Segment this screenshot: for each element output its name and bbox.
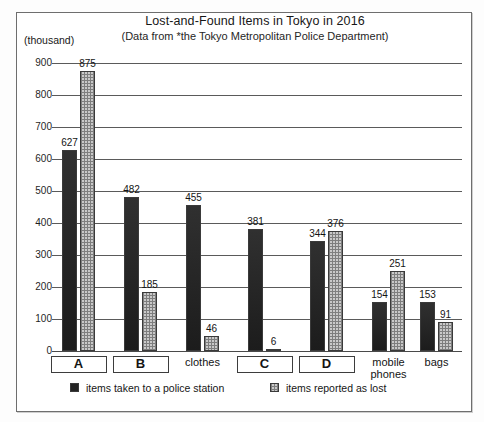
y-axis-tick-label: 900 xyxy=(6,57,52,68)
dotted-square-icon xyxy=(270,383,279,392)
bar-lost xyxy=(142,292,157,351)
y-axis-tick: 200 xyxy=(0,287,52,288)
y-axis-tick-label: 100 xyxy=(6,313,52,324)
y-axis-tick: 800 xyxy=(0,95,52,96)
legend-item-series1: items taken to a police station xyxy=(70,381,224,394)
y-axis-tick: 0 xyxy=(0,351,52,352)
y-axis-tick-label: 700 xyxy=(6,121,52,132)
y-axis-tick-label: 0 xyxy=(6,345,52,356)
bar-value-label: 185 xyxy=(130,279,170,290)
y-axis-tick-label: 300 xyxy=(6,249,52,260)
category-label-clothes: clothes xyxy=(169,356,237,368)
bar-taken xyxy=(248,229,263,351)
gridline xyxy=(52,127,462,128)
bar-value-label: 381 xyxy=(236,216,276,227)
bar-lost xyxy=(328,231,343,351)
legend-label-series1: items taken to a police station xyxy=(86,382,224,394)
bar-lost xyxy=(204,336,219,351)
bar-taken xyxy=(372,302,387,351)
category-label-box: C xyxy=(237,356,293,373)
y-axis-tick-label: 200 xyxy=(6,281,52,292)
bar-taken xyxy=(62,150,77,351)
y-axis-tick: 900 xyxy=(0,63,52,64)
category-label-box: A xyxy=(51,356,107,373)
category-label-A: A xyxy=(45,356,113,373)
gridline xyxy=(52,63,462,64)
category-label-box: B xyxy=(113,356,169,373)
legend-label-series2: items reported as lost xyxy=(286,382,386,394)
chart-screenshot: Lost-and-Found Items in Tokyo in 2016 (D… xyxy=(0,0,484,422)
bar-lost xyxy=(390,271,405,351)
bar-value-label: 91 xyxy=(426,309,466,320)
x-axis-baseline xyxy=(52,351,462,352)
y-axis-tick: 500 xyxy=(0,191,52,192)
bar-value-label: 251 xyxy=(378,258,418,269)
bar-value-label: 376 xyxy=(316,218,356,229)
y-axis-tick: 300 xyxy=(0,255,52,256)
bar-lost xyxy=(438,322,453,351)
category-label-B: B xyxy=(107,356,175,373)
gridline xyxy=(52,159,462,160)
bar-lost xyxy=(266,349,281,351)
y-axis-tick-label: 800 xyxy=(6,89,52,100)
bar-value-label: 6 xyxy=(254,336,294,347)
bar-value-label: 46 xyxy=(192,323,232,334)
bar-value-label: 455 xyxy=(174,192,214,203)
y-axis-tick-label: 500 xyxy=(6,185,52,196)
plot-area: 9008007006005004003002001000 62787548218… xyxy=(0,0,484,422)
y-axis-tick: 100 xyxy=(0,319,52,320)
bar-value-label: 482 xyxy=(112,184,152,195)
y-axis-tick-label: 400 xyxy=(6,217,52,228)
category-label-D: D xyxy=(293,356,361,373)
y-axis-tick: 600 xyxy=(0,159,52,160)
category-label-C: C xyxy=(231,356,299,373)
bar-lost xyxy=(80,71,95,351)
gridline xyxy=(52,95,462,96)
bar-taken xyxy=(124,197,139,351)
legend-item-series2: items reported as lost xyxy=(270,381,386,394)
dark-square-icon xyxy=(70,383,79,392)
bar-value-label: 875 xyxy=(68,58,108,69)
category-label-box: D xyxy=(299,356,355,373)
y-axis-tick-label: 600 xyxy=(6,153,52,164)
y-axis-tick: 700 xyxy=(0,127,52,128)
category-label-bags: bags xyxy=(403,356,471,368)
bar-taken xyxy=(310,241,325,351)
y-axis-tick: 400 xyxy=(0,223,52,224)
bar-value-label: 153 xyxy=(408,289,448,300)
